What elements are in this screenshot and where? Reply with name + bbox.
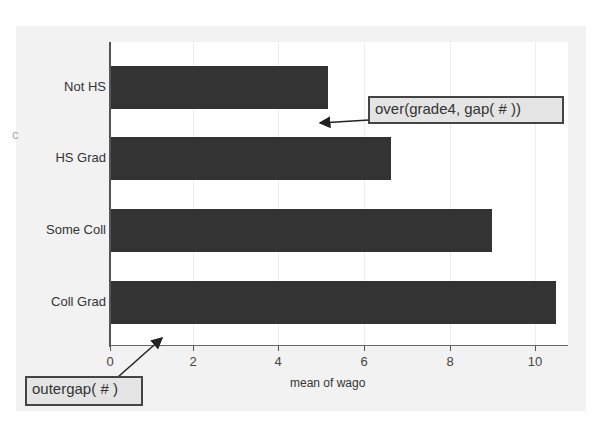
arrow-gap-icon [320, 120, 369, 123]
edge-mark: c [12, 127, 19, 142]
annotation-gap: over(grade4, gap( # )) [368, 96, 564, 124]
arrow-outergap-icon [118, 338, 162, 377]
annotation-arrows [0, 0, 604, 438]
annotation-outergap: outergap( # ) [25, 376, 143, 406]
